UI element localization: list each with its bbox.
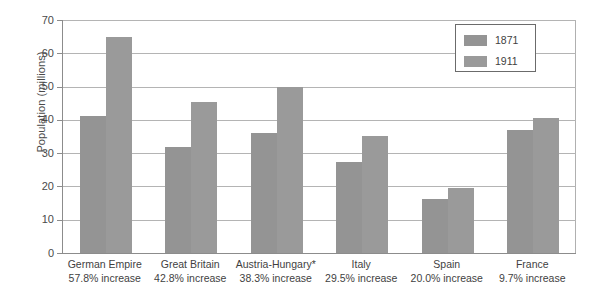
gridline-30 [63, 153, 576, 154]
y-tick-label-10: 10 [14, 214, 54, 225]
x-label-country: Italy [352, 258, 371, 270]
gridline-10 [63, 220, 576, 221]
cut-off-caption-sliver [300, 301, 560, 307]
bar-france-1871 [507, 130, 533, 253]
gridline-40 [63, 120, 576, 121]
chart-legend: 18711911 [455, 24, 536, 72]
bar-italy-1911 [362, 136, 388, 253]
y-tick-label-0: 0 [14, 248, 54, 259]
y-axis-title: Population (millions) [35, 17, 47, 187]
bar-france-1911 [533, 118, 559, 253]
legend-item-1911: 1911 [464, 55, 518, 68]
y-tick-label-70: 70 [14, 15, 54, 26]
gridline-50 [63, 87, 576, 88]
y-tick-label-50: 50 [14, 81, 54, 92]
plot-frame-right-border [575, 20, 576, 253]
legend-label-1871: 1871 [495, 35, 518, 46]
bar-germanempire-1871 [80, 116, 106, 253]
y-tick-mark-10 [57, 220, 62, 221]
gridline-70 [63, 20, 576, 21]
y-tick-mark-40 [57, 120, 62, 121]
x-label-country: France [516, 258, 549, 270]
y-tick-label-40: 40 [14, 114, 54, 125]
bar-austriahungary-1911 [277, 87, 303, 253]
bar-austriahungary-1871 [251, 133, 277, 253]
y-tick-label-60: 60 [14, 48, 54, 59]
y-tick-mark-30 [57, 153, 62, 154]
bar-italy-1871 [336, 162, 362, 253]
bar-greatbritain-1871 [165, 147, 191, 253]
population-bar-chart: Population (millions) 706050403020100 Ge… [0, 0, 599, 307]
y-tick-mark-20 [57, 186, 62, 187]
y-tick-mark-70 [57, 20, 62, 21]
y-tick-mark-0 [57, 253, 62, 254]
x-label-group-6: France9.7% increase [472, 258, 592, 285]
bar-spain-1911 [448, 188, 474, 253]
y-tick-mark-50 [57, 87, 62, 88]
y-tick-label-20: 20 [14, 181, 54, 192]
y-tick-mark-60 [57, 53, 62, 54]
bar-greatbritain-1911 [191, 102, 217, 253]
bar-germanempire-1911 [106, 37, 132, 253]
x-label-country: Great Britain [161, 258, 220, 270]
legend-swatch-1911 [464, 56, 487, 67]
bar-spain-1871 [422, 199, 448, 253]
legend-label-1911: 1911 [495, 56, 518, 67]
gridline-20 [63, 186, 576, 187]
legend-swatch-1871 [464, 35, 487, 46]
x-label-country: Spain [433, 258, 460, 270]
legend-item-1871: 1871 [464, 34, 518, 47]
x-label-increase: 9.7% increase [472, 272, 592, 286]
y-tick-label-30: 30 [14, 148, 54, 159]
